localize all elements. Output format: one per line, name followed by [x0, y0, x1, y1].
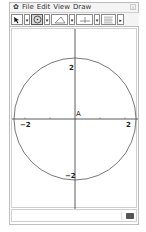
pointer-tool-dropdown[interactable]: ▾: [24, 14, 30, 25]
grid-icon: [103, 16, 114, 24]
triangle-tool-button[interactable]: [51, 14, 68, 25]
keyboard-icon[interactable]: [126, 213, 134, 219]
grid-tool-button[interactable]: [101, 14, 116, 25]
menu-bar: ✿ File Edit View Draw x: [10, 3, 138, 13]
x-tick-label-2: 2: [126, 121, 131, 129]
app-menu-icon[interactable]: ✿: [13, 3, 19, 12]
menu-edit[interactable]: Edit: [37, 3, 51, 12]
geometry-app-window: ✿ File Edit View Draw x ▾ ▾ ▾ ▾ ▸: [9, 2, 139, 225]
toolbar-more-button[interactable]: ▸: [117, 14, 124, 25]
close-button[interactable]: x: [130, 4, 136, 10]
menu-draw[interactable]: Draw: [73, 3, 91, 12]
triangle-icon: [54, 16, 66, 24]
point-label-a[interactable]: A: [76, 110, 81, 118]
graph-canvas[interactable]: A −2 2 2 −2: [11, 28, 137, 208]
menu-file[interactable]: File: [22, 3, 34, 12]
status-bar: [11, 209, 137, 222]
axes-tool-button[interactable]: [76, 14, 93, 25]
perpendicular-icon: [79, 16, 91, 24]
circle-tool-dropdown[interactable]: ▾: [44, 14, 50, 25]
status-divider: [121, 212, 122, 220]
toolbar: ▾ ▾ ▾ ▾ ▸: [10, 13, 139, 27]
pointer-tool-button[interactable]: [11, 14, 23, 25]
y-tick-label-neg2: −2: [65, 172, 76, 180]
y-tick-label-2: 2: [69, 64, 74, 72]
circle-icon: [33, 15, 42, 24]
x-tick-label-neg2: −2: [20, 121, 31, 129]
circle-tool-button[interactable]: [31, 14, 43, 25]
axes-tool-dropdown[interactable]: ▾: [94, 14, 100, 25]
graph-svg: [12, 29, 138, 209]
pointer-icon: [13, 16, 21, 24]
triangle-tool-dropdown[interactable]: ▾: [69, 14, 75, 25]
menu-view[interactable]: View: [53, 3, 70, 12]
